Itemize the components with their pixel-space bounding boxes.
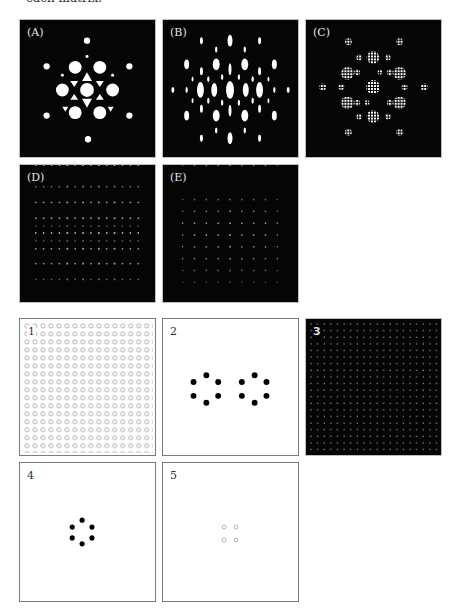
caption-fragment: each matrix. (26, 0, 102, 5)
panel-3: 3 (305, 318, 442, 456)
four-open-circles (163, 463, 298, 601)
panel-label: (C) (313, 26, 330, 39)
open-circle-array (20, 319, 155, 455)
diffraction-pattern-a (20, 20, 155, 157)
diffraction-pattern-d (20, 165, 155, 302)
panel-e: (E) (162, 164, 299, 303)
panel-a: (A) (19, 19, 156, 158)
panel-label: 1 (27, 325, 36, 338)
panel-b: (B) (162, 19, 299, 158)
diffraction-pattern-e (163, 165, 298, 302)
panel-1: 1 (19, 318, 156, 456)
panel-label: (B) (170, 26, 187, 39)
diffraction-pattern-b (163, 20, 298, 157)
panel-label: 3 (313, 325, 321, 338)
panel-label: 5 (170, 469, 177, 482)
panel-label: (A) (27, 26, 44, 39)
panel-label: 4 (27, 469, 34, 482)
panel-2: 2 (162, 318, 299, 456)
panel-label: 2 (170, 325, 177, 338)
panel-label: (E) (170, 171, 187, 184)
panel-label: (D) (27, 171, 44, 184)
panel-c: (C) (305, 19, 442, 158)
hexagon-dots (20, 463, 155, 601)
diffraction-pattern-c (306, 20, 441, 157)
two-hexagon-dots (163, 319, 298, 455)
panel-5: 5 (162, 462, 299, 602)
panel-d: (D) (19, 164, 156, 303)
gray-dot-grid (306, 319, 441, 455)
panel-4: 4 (19, 462, 156, 602)
